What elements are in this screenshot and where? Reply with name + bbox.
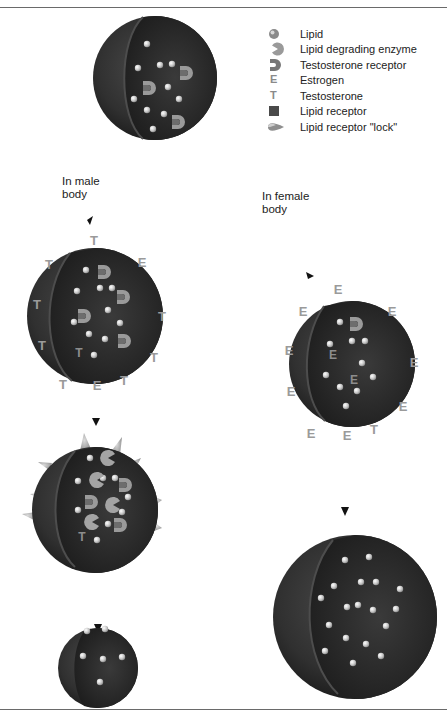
lipid-degrading-enzyme-icon bbox=[266, 42, 288, 56]
initial-cell bbox=[93, 16, 217, 140]
testosterone-molecule: T bbox=[75, 347, 82, 360]
estrogen-molecule: E bbox=[343, 429, 352, 442]
caption-female-body: In female body bbox=[262, 190, 309, 216]
female-cell-step2 bbox=[273, 535, 437, 699]
testosterone-molecule: T bbox=[120, 374, 128, 387]
legend-item-estrogen: E Estrogen bbox=[266, 73, 417, 89]
lipid-icon bbox=[266, 27, 288, 41]
legend-label: Lipid receptor "lock" bbox=[300, 121, 397, 133]
testosterone-molecule: T bbox=[38, 339, 46, 352]
testosterone-receptor-icon bbox=[266, 58, 288, 72]
legend-label: Lipid bbox=[300, 28, 323, 40]
caption-male-body: In male body bbox=[62, 175, 100, 201]
legend-item-lipid-degrading-enzyme: Lipid degrading enzyme bbox=[266, 42, 417, 58]
legend-item-lipid-receptor-lock: Lipid receptor "lock" bbox=[266, 119, 417, 135]
legend-label: Testosterone bbox=[300, 90, 363, 102]
estrogen-molecule: E bbox=[138, 256, 147, 269]
legend-label: Lipid receptor bbox=[300, 105, 367, 117]
legend-label: Lipid degrading enzyme bbox=[300, 43, 417, 55]
arrow-down-icon bbox=[92, 418, 100, 426]
arrow-pointer-icon bbox=[87, 216, 93, 225]
testosterone-molecule: T bbox=[150, 351, 158, 364]
estrogen-molecule: E bbox=[334, 283, 343, 296]
testosterone-icon: T bbox=[266, 89, 288, 103]
female-cell-step1 bbox=[289, 301, 415, 427]
estrogen-molecule: E bbox=[287, 385, 296, 398]
testosterone-molecule: T bbox=[158, 310, 166, 323]
estrogen-molecule: E bbox=[410, 356, 419, 369]
male-cell-step2 bbox=[22, 433, 162, 573]
legend-item-lipid: Lipid bbox=[266, 26, 417, 42]
testosterone-molecule: T bbox=[90, 234, 98, 247]
arrow-down-icon bbox=[341, 507, 349, 516]
estrogen-molecule: E bbox=[399, 400, 408, 413]
testosterone-molecule: T bbox=[45, 258, 53, 271]
male-cell-step3 bbox=[58, 626, 138, 708]
estrogen-molecule: E bbox=[388, 305, 397, 318]
testosterone-molecule: T bbox=[78, 531, 85, 544]
estrogen-molecule: E bbox=[307, 427, 316, 440]
estrogen-molecule: E bbox=[93, 379, 102, 392]
testosterone-molecule: T bbox=[370, 423, 378, 436]
testosterone-molecule: T bbox=[59, 378, 67, 391]
arrow-pointer-icon bbox=[306, 272, 314, 279]
legend: Lipid Lipid degrading enzyme Testosteron… bbox=[266, 26, 417, 135]
legend-item-testosterone: T Testosterone bbox=[266, 88, 417, 104]
lipid-receptor-icon bbox=[266, 104, 288, 118]
lipid-receptor-lock-icon bbox=[266, 120, 288, 134]
estrogen-molecule: E bbox=[285, 344, 294, 357]
legend-label: Estrogen bbox=[300, 74, 344, 86]
estrogen-icon: E bbox=[266, 73, 288, 87]
legend-item-testosterone-receptor: Testosterone receptor bbox=[266, 57, 417, 73]
estrogen-molecule: E bbox=[299, 305, 308, 318]
estrogen-molecule: E bbox=[329, 349, 337, 362]
legend-label: Testosterone receptor bbox=[300, 59, 406, 71]
testosterone-molecule: T bbox=[33, 298, 41, 311]
legend-item-lipid-receptor: Lipid receptor bbox=[266, 104, 417, 120]
estrogen-molecule: E bbox=[350, 374, 358, 387]
